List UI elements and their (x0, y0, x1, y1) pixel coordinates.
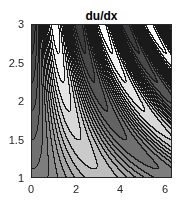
x-tick-label: 4 (110, 183, 130, 195)
contour-canvas (32, 25, 172, 178)
x-tick-label: 2 (66, 183, 86, 195)
y-tick-label: 3 (18, 19, 24, 30)
y-tick-label: 2.5 (9, 58, 24, 69)
y-tick-label: 1.5 (9, 135, 24, 146)
x-tick-label: 0 (21, 183, 41, 195)
y-tick-label: 2 (18, 96, 24, 107)
x-tick-label: 6 (155, 183, 175, 195)
chart-title: du/dx (31, 9, 172, 23)
contour-plot-area (31, 24, 172, 178)
